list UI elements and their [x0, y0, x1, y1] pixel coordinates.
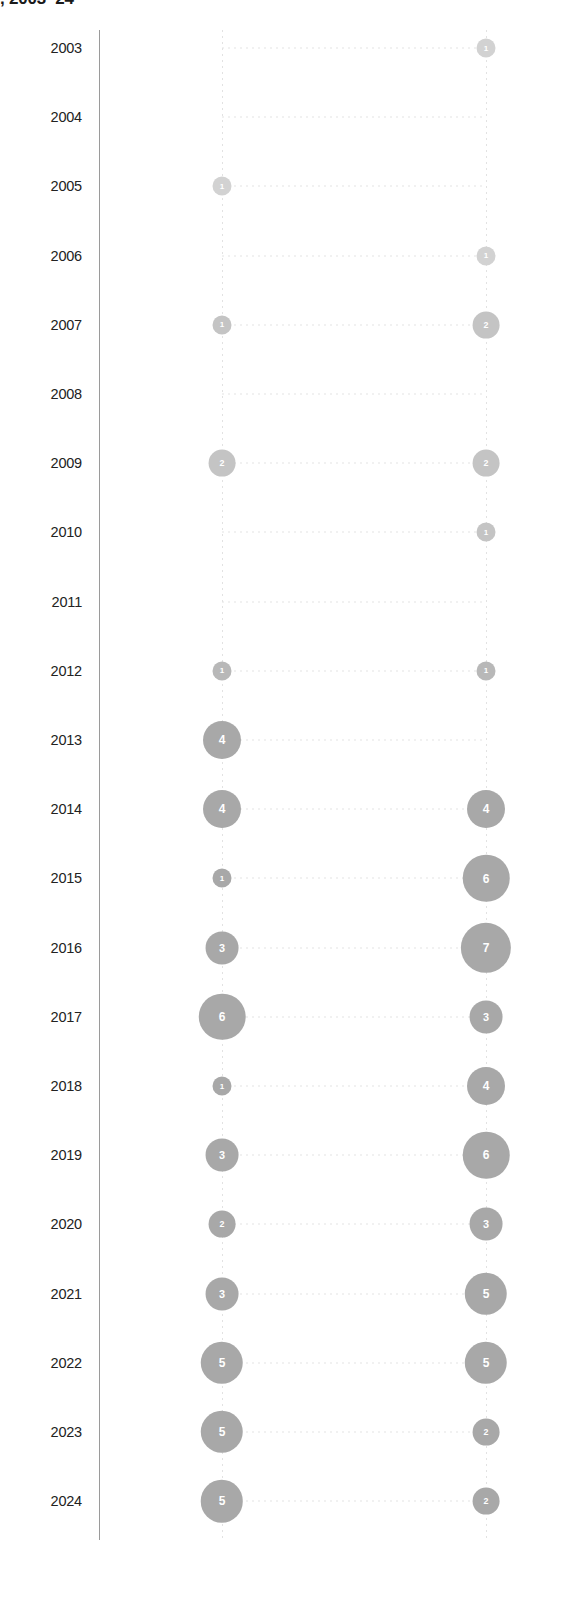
left-series-bubble[interactable]: 1: [213, 661, 232, 680]
year-axis-label: 2007: [0, 317, 82, 333]
bubble-timeline-plot: 2003120042005120061200712200820092220101…: [0, 0, 581, 1607]
right-series-bubble[interactable]: 6: [463, 855, 510, 902]
right-series-bubble[interactable]: 2: [473, 311, 500, 338]
left-series-bubble[interactable]: 1: [213, 1077, 232, 1096]
row-connector-line: [222, 1432, 486, 1433]
row-connector-line: [222, 670, 486, 671]
row-connector-line: [222, 463, 486, 464]
year-axis-label: 2024: [0, 1493, 82, 1509]
chart-page: , 2003–24 200312004200512006120071220082…: [0, 0, 581, 1607]
row-connector-line: [222, 1362, 486, 1363]
row-connector-line: [222, 740, 486, 741]
year-axis-label: 2020: [0, 1216, 82, 1232]
row-connector-line: [222, 324, 486, 325]
right-series-bubble[interactable]: 1: [477, 246, 496, 265]
left-series-bubble[interactable]: 2: [209, 1211, 236, 1238]
left-series-bubble[interactable]: 2: [209, 450, 236, 477]
left-series-bubble[interactable]: 5: [201, 1480, 243, 1522]
year-axis-label: 2003: [0, 40, 82, 56]
year-axis-label: 2011: [0, 594, 82, 610]
right-series-bubble[interactable]: 7: [461, 922, 511, 972]
right-series-bubble[interactable]: 1: [477, 523, 496, 542]
year-axis-label: 2017: [0, 1009, 82, 1025]
row-connector-line: [222, 1501, 486, 1502]
left-series-bubble[interactable]: 1: [213, 315, 232, 334]
year-axis-label: 2015: [0, 870, 82, 886]
row-connector-line: [222, 809, 486, 810]
year-axis-label: 2016: [0, 940, 82, 956]
left-series-bubble[interactable]: 3: [206, 1277, 239, 1310]
left-series-bubble[interactable]: 1: [213, 869, 232, 888]
row-connector-line: [222, 394, 486, 395]
year-axis-label: 2012: [0, 663, 82, 679]
year-axis-label: 2010: [0, 524, 82, 540]
left-series-bubble[interactable]: 3: [206, 931, 239, 964]
row-connector-line: [222, 117, 486, 118]
right-series-bubble[interactable]: 5: [465, 1342, 507, 1384]
left-series-bubble[interactable]: 4: [203, 721, 241, 759]
row-connector-line: [222, 48, 486, 49]
right-series-bubble[interactable]: 5: [465, 1272, 507, 1314]
row-connector-line: [222, 186, 486, 187]
right-series-bubble[interactable]: 4: [467, 1067, 505, 1105]
year-axis-label: 2014: [0, 801, 82, 817]
year-axis-label: 2022: [0, 1355, 82, 1371]
year-axis-label: 2021: [0, 1286, 82, 1302]
year-axis-label: 2018: [0, 1078, 82, 1094]
year-axis-label: 2005: [0, 178, 82, 194]
year-axis-label: 2004: [0, 109, 82, 125]
year-axis-label: 2006: [0, 248, 82, 264]
left-series-bubble[interactable]: 3: [206, 1139, 239, 1172]
right-series-bubble[interactable]: 3: [470, 1208, 503, 1241]
row-connector-line: [222, 1155, 486, 1156]
row-connector-line: [222, 1016, 486, 1017]
right-series-bubble[interactable]: 3: [470, 1000, 503, 1033]
right-series-bubble[interactable]: 1: [477, 39, 496, 58]
row-connector-line: [222, 1224, 486, 1225]
row-connector-line: [222, 1293, 486, 1294]
row-connector-line: [222, 947, 486, 948]
row-connector-line: [222, 878, 486, 879]
left-series-bubble[interactable]: 4: [203, 790, 241, 828]
year-axis-label: 2009: [0, 455, 82, 471]
row-connector-line: [222, 1086, 486, 1087]
left-series-bubble[interactable]: 5: [201, 1411, 243, 1453]
y-axis-line: [99, 30, 100, 1540]
right-series-bubble[interactable]: 1: [477, 661, 496, 680]
row-connector-line: [222, 532, 486, 533]
right-series-bubble[interactable]: 2: [473, 1488, 500, 1515]
year-axis-label: 2013: [0, 732, 82, 748]
left-series-bubble[interactable]: 6: [199, 994, 246, 1041]
left-series-guide-rail: [222, 30, 223, 1540]
right-series-bubble[interactable]: 2: [473, 1419, 500, 1446]
row-connector-line: [222, 601, 486, 602]
year-axis-label: 2008: [0, 386, 82, 402]
year-axis-label: 2019: [0, 1147, 82, 1163]
left-series-bubble[interactable]: 1: [213, 177, 232, 196]
right-series-bubble[interactable]: 6: [463, 1132, 510, 1179]
right-series-bubble[interactable]: 4: [467, 790, 505, 828]
left-series-bubble[interactable]: 5: [201, 1342, 243, 1384]
right-series-bubble[interactable]: 2: [473, 450, 500, 477]
row-connector-line: [222, 255, 486, 256]
year-axis-label: 2023: [0, 1424, 82, 1440]
